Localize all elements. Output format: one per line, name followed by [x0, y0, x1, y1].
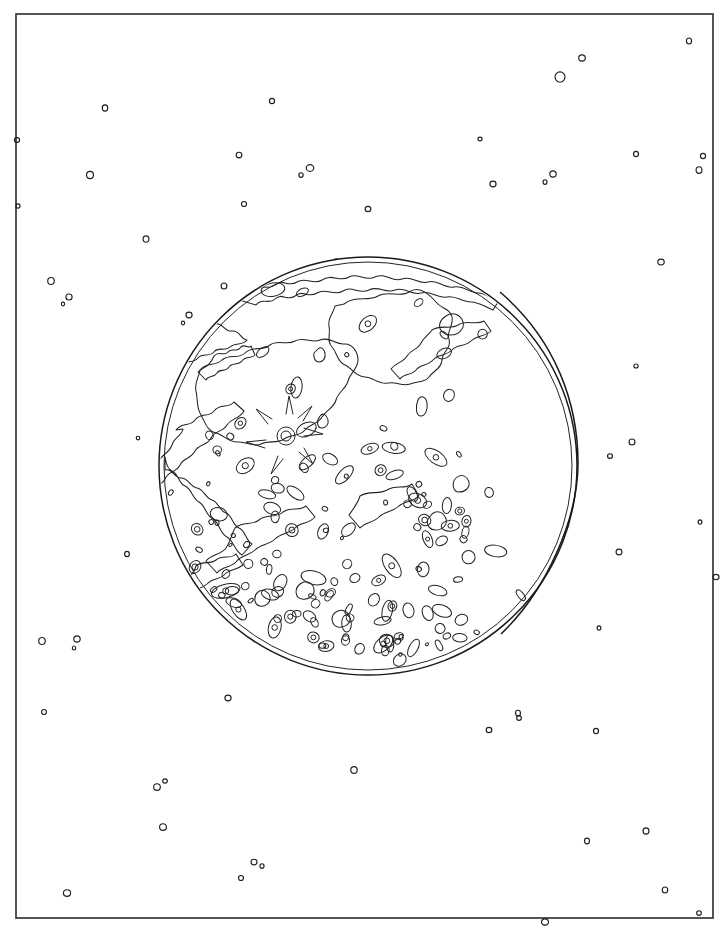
illustration-page — [0, 0, 728, 932]
moon-illustration-canvas — [0, 0, 728, 932]
moon-limb-circle — [159, 257, 577, 675]
